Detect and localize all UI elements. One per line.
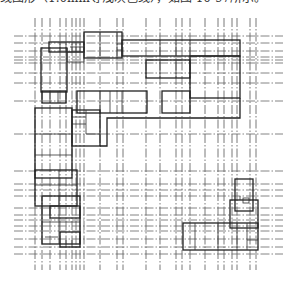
room-bottom-right-mid [230,200,258,228]
floor-plan-diagram [0,0,298,285]
room-left-wing [41,48,67,92]
room-bottom-stairs [60,232,80,247]
room-right-large [190,56,240,98]
corridor-outline [100,98,240,146]
horizontal-axis-lines [14,36,283,254]
room-top-right-block [122,40,240,56]
room-left-bottom-1 [35,170,77,206]
room-left-lower [35,108,72,178]
building-walls [35,32,258,250]
